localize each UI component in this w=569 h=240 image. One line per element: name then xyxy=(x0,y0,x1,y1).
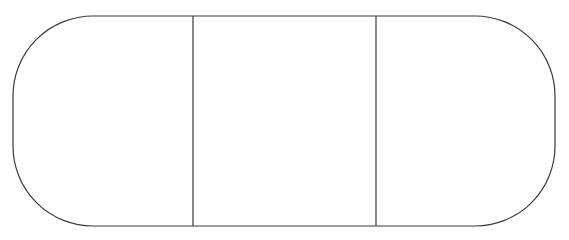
diagram-canvas xyxy=(0,0,569,240)
three-section-capsule-diagram xyxy=(0,0,569,240)
capsule-outline xyxy=(13,16,555,226)
